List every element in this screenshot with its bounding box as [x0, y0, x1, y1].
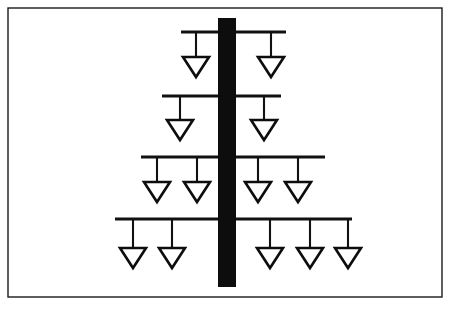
figure-root: [0, 0, 452, 309]
diagram-canvas: [0, 0, 452, 309]
vertical-mast: [218, 18, 236, 287]
